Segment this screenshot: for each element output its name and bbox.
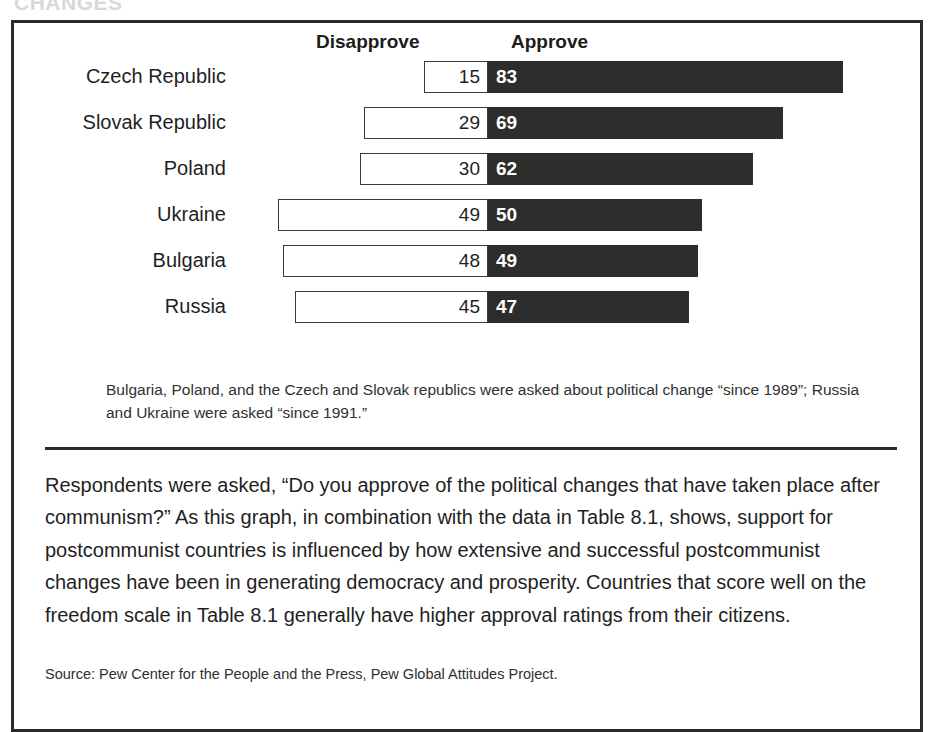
bar-pair: 4849 (14, 245, 920, 277)
section-divider (45, 447, 897, 450)
chart-bar-row: Bulgaria4849 (14, 243, 920, 289)
approve-bar: 83 (488, 61, 843, 93)
source-line: Source: Pew Center for the People and th… (45, 666, 890, 682)
approve-bar: 69 (488, 107, 783, 139)
approve-value: 83 (496, 66, 517, 88)
bar-pair: 1583 (14, 61, 920, 93)
disapprove-bar: 30 (360, 153, 488, 185)
approve-value: 69 (496, 112, 517, 134)
approve-bar: 49 (488, 245, 698, 277)
chart-bar-row: Czech Republic1583 (14, 59, 920, 105)
approve-value: 62 (496, 158, 517, 180)
approve-value: 49 (496, 250, 517, 272)
chart-bar-row: Poland3062 (14, 151, 920, 197)
chart-bar-rows: Czech Republic1583Slovak Republic2969Pol… (14, 59, 920, 335)
approve-value: 47 (496, 296, 517, 318)
chart-bar-row: Slovak Republic2969 (14, 105, 920, 151)
disapprove-bar: 15 (424, 61, 488, 93)
bar-pair: 4950 (14, 199, 920, 231)
disapprove-bar: 29 (364, 107, 488, 139)
diverging-bar-chart: Disapprove Approve Czech Republic1583Slo… (14, 23, 920, 353)
disapprove-bar: 45 (295, 291, 488, 323)
disapprove-value: 15 (459, 66, 480, 88)
disapprove-value: 49 (459, 204, 480, 226)
cut-off-page-heading: CHANGES (14, 0, 123, 15)
approve-value: 50 (496, 204, 517, 226)
chart-bar-row: Ukraine4950 (14, 197, 920, 243)
figure-frame: Disapprove Approve Czech Republic1583Slo… (11, 20, 923, 732)
chart-footnote: Bulgaria, Poland, and the Czech and Slov… (106, 378, 876, 425)
bar-pair: 2969 (14, 107, 920, 139)
disapprove-value: 29 (459, 112, 480, 134)
disapprove-value: 48 (459, 250, 480, 272)
column-header-approve: Approve (511, 31, 588, 53)
disapprove-value: 45 (459, 296, 480, 318)
bar-pair: 4547 (14, 291, 920, 323)
chart-bar-row: Russia4547 (14, 289, 920, 335)
approve-bar: 62 (488, 153, 753, 185)
chart-column-headers: Disapprove Approve (14, 23, 920, 53)
bar-pair: 3062 (14, 153, 920, 185)
approve-bar: 47 (488, 291, 689, 323)
body-paragraph: Respondents were asked, “Do you approve … (45, 469, 890, 631)
disapprove-bar: 48 (283, 245, 488, 277)
disapprove-bar: 49 (278, 199, 488, 231)
disapprove-value: 30 (459, 158, 480, 180)
column-header-disapprove: Disapprove (316, 31, 419, 53)
approve-bar: 50 (488, 199, 702, 231)
